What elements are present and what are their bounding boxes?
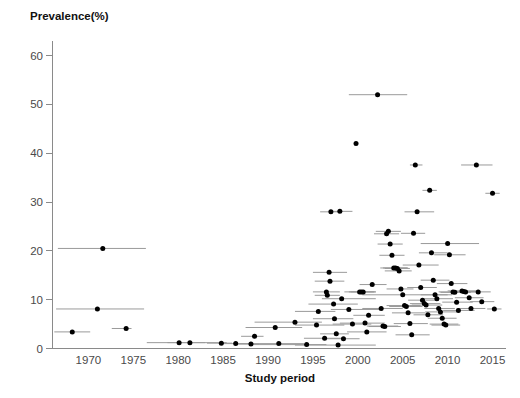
data-point bbox=[447, 252, 452, 257]
data-point bbox=[325, 293, 330, 298]
data-point bbox=[379, 306, 384, 311]
x-tick-label: 1970 bbox=[76, 354, 102, 366]
data-point bbox=[350, 322, 355, 327]
data-point bbox=[336, 343, 341, 348]
data-point bbox=[388, 242, 393, 247]
data-point bbox=[463, 289, 468, 294]
data-point bbox=[474, 162, 479, 167]
data-point bbox=[233, 341, 238, 346]
x-tick-label: 1985 bbox=[210, 354, 236, 366]
data-point bbox=[70, 329, 75, 334]
data-point bbox=[346, 307, 351, 312]
data-point bbox=[366, 313, 371, 318]
data-point bbox=[418, 285, 423, 290]
x-tick-label: 2015 bbox=[480, 354, 506, 366]
data-point bbox=[95, 306, 100, 311]
data-point bbox=[273, 325, 278, 330]
data-point bbox=[416, 263, 421, 268]
data-point bbox=[252, 334, 257, 339]
x-axis-title: Study period bbox=[245, 372, 315, 384]
data-point bbox=[363, 321, 368, 326]
data-point bbox=[407, 321, 412, 326]
data-point bbox=[415, 209, 420, 214]
data-point bbox=[452, 290, 457, 295]
y-tick-label: 50 bbox=[30, 98, 43, 110]
x-tick-label: 1980 bbox=[165, 354, 191, 366]
y-tick-label: 10 bbox=[30, 294, 43, 306]
data-point bbox=[409, 332, 414, 337]
data-point bbox=[334, 331, 339, 336]
data-point bbox=[413, 162, 418, 167]
data-point bbox=[304, 342, 309, 347]
data-point bbox=[454, 300, 459, 305]
data-point bbox=[429, 250, 434, 255]
prevalence-scatter-figure: 0102030405060 19701975198019851990199520… bbox=[0, 0, 520, 398]
x-tick-label: 1990 bbox=[255, 354, 281, 366]
data-point bbox=[316, 309, 321, 314]
x-axis-ticks: 1970197519801985199019952000200520102015 bbox=[76, 354, 506, 366]
y-tick-label: 30 bbox=[30, 196, 43, 208]
data-point bbox=[332, 316, 337, 321]
data-point bbox=[425, 312, 430, 317]
data-point bbox=[292, 320, 297, 325]
data-point bbox=[339, 296, 344, 301]
data-point bbox=[375, 92, 380, 97]
y-axis-ticks: 0102030405060 bbox=[30, 50, 52, 355]
data-point bbox=[370, 282, 375, 287]
data-point bbox=[492, 306, 497, 311]
x-tick-label: 2010 bbox=[435, 354, 461, 366]
data-point bbox=[440, 316, 445, 321]
data-point bbox=[404, 304, 409, 309]
data-point bbox=[411, 231, 416, 236]
y-tick-label: 60 bbox=[30, 50, 43, 62]
data-point bbox=[445, 241, 450, 246]
data-point bbox=[177, 340, 182, 345]
data-point bbox=[327, 279, 332, 284]
x-tick-label: 2005 bbox=[390, 354, 416, 366]
data-point bbox=[434, 296, 439, 301]
data-point bbox=[427, 188, 432, 193]
data-point bbox=[124, 326, 129, 331]
data-point bbox=[314, 323, 319, 328]
data-point bbox=[364, 329, 369, 334]
data-point bbox=[467, 295, 472, 300]
cropped-caption-fragment bbox=[8, 389, 308, 398]
data-point bbox=[431, 278, 436, 283]
x-tick-label: 1995 bbox=[300, 354, 326, 366]
data-point bbox=[424, 303, 429, 308]
data-point bbox=[406, 310, 411, 315]
y-tick-label: 20 bbox=[30, 245, 43, 257]
data-point bbox=[468, 306, 473, 311]
data-point bbox=[398, 286, 403, 291]
data-point bbox=[354, 141, 359, 146]
data-point bbox=[361, 289, 366, 294]
data-point bbox=[219, 341, 224, 346]
data-point bbox=[328, 209, 333, 214]
data-point bbox=[386, 229, 391, 234]
data-point bbox=[400, 292, 405, 297]
data-point bbox=[490, 191, 495, 196]
data-point bbox=[100, 246, 105, 251]
data-point bbox=[337, 209, 342, 214]
data-point bbox=[322, 336, 327, 341]
data-point bbox=[456, 308, 461, 313]
data-point bbox=[443, 323, 448, 328]
data-point bbox=[382, 324, 387, 329]
data-point bbox=[341, 336, 346, 341]
data-point bbox=[248, 342, 253, 347]
data-point bbox=[327, 270, 332, 275]
y-tick-label: 40 bbox=[30, 147, 43, 159]
data-point bbox=[276, 341, 281, 346]
data-point bbox=[331, 302, 336, 307]
data-point bbox=[389, 253, 394, 258]
x-tick-label: 2000 bbox=[345, 354, 371, 366]
error-bar-layer bbox=[54, 95, 501, 345]
x-tick-label: 1975 bbox=[121, 354, 147, 366]
data-point bbox=[479, 299, 484, 304]
data-point bbox=[187, 340, 192, 345]
scatter-plot: 0102030405060 19701975198019851990199520… bbox=[0, 0, 520, 398]
y-axis-title: Prevalence(%) bbox=[30, 10, 109, 22]
axes-layer: 0102030405060 19701975198019851990199520… bbox=[30, 41, 506, 366]
data-point bbox=[449, 281, 454, 286]
y-tick-label: 0 bbox=[37, 343, 43, 355]
